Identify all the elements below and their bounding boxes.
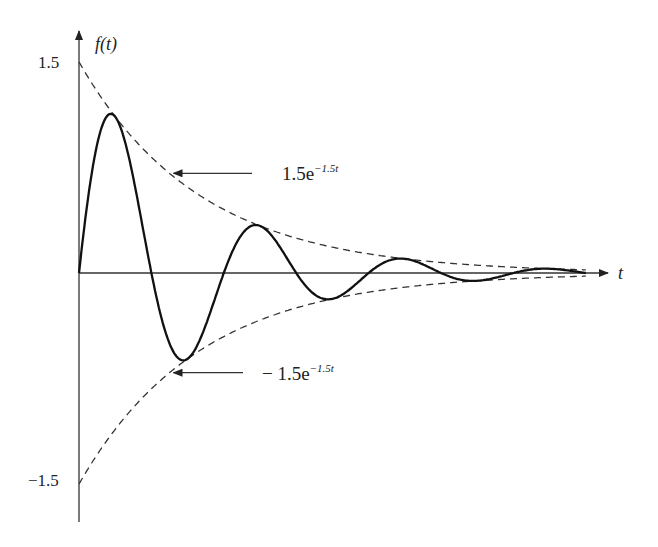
- lower-envelope-line: [79, 276, 586, 484]
- damped-signal-line: [79, 114, 586, 361]
- y-tick-label-bottom: −1.5: [28, 471, 59, 490]
- y-tick-label-top: 1.5: [38, 53, 59, 72]
- y-axis-label: f(t): [95, 34, 117, 55]
- x-axis-label: t: [618, 263, 624, 283]
- annotation-label: 1.5e−1.5t: [282, 162, 339, 184]
- annotation-label: − 1.5e−1.5t: [262, 362, 335, 384]
- damped-oscillation-chart: f(t) t 1.5 −1.5 1.5e−1.5t− 1.5e−1.5t: [0, 0, 658, 547]
